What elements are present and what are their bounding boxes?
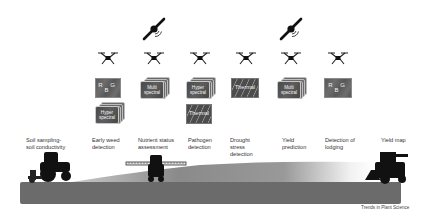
sensor-card-thermal: Thermal — [186, 104, 212, 124]
label-line: Soil sampling- — [26, 137, 86, 144]
sensor-card-rgb: R G B — [95, 78, 121, 98]
source-credit: Trends in Plant Science — [361, 205, 409, 210]
label-line: Drought — [230, 137, 280, 144]
application-label-soil: Soil sampling- soil conductivity — [26, 137, 86, 151]
application-label-lodging: Detection of lodging — [325, 137, 375, 151]
sensor-card-rgb: R G B — [324, 78, 352, 98]
sensor-label: spectral — [281, 90, 297, 95]
drone-icon — [189, 50, 211, 66]
crop-canopy — [72, 162, 375, 182]
satellite-icon — [278, 16, 304, 42]
sensor-label: spectral — [99, 115, 115, 120]
drone-icon — [97, 50, 119, 66]
label-line: Yield map — [381, 137, 431, 144]
application-label-yield-map: Yield map — [381, 137, 431, 144]
sensor-label: spectral — [190, 90, 206, 95]
sensor-card-hyperspectral: Hyperspectral — [95, 102, 123, 124]
application-label-weed: Early weed detection — [92, 137, 142, 151]
drone-icon — [143, 50, 165, 66]
field-scene — [0, 150, 439, 210]
soil-band — [20, 182, 401, 204]
sensor-card-multispectral: Multispectral — [140, 77, 168, 99]
satellite-icon — [141, 16, 167, 42]
sensor-card-thermal: Thermal — [231, 78, 259, 98]
sensor-card-hyperspectral: Hyperspectral — [186, 77, 214, 99]
label-line: Detection of — [325, 137, 375, 144]
drone-icon — [327, 50, 349, 66]
sensor-label: spectral — [144, 90, 160, 95]
drone-icon — [280, 50, 302, 66]
sensor-card-multispectral: Multispectral — [277, 77, 305, 99]
label-line: Nutrient status — [138, 137, 188, 144]
tractor-icon — [28, 152, 71, 183]
application-label-nutrient: Nutrient status assessment — [138, 137, 188, 151]
drone-icon — [235, 50, 257, 66]
label-line: Early weed — [92, 137, 142, 144]
